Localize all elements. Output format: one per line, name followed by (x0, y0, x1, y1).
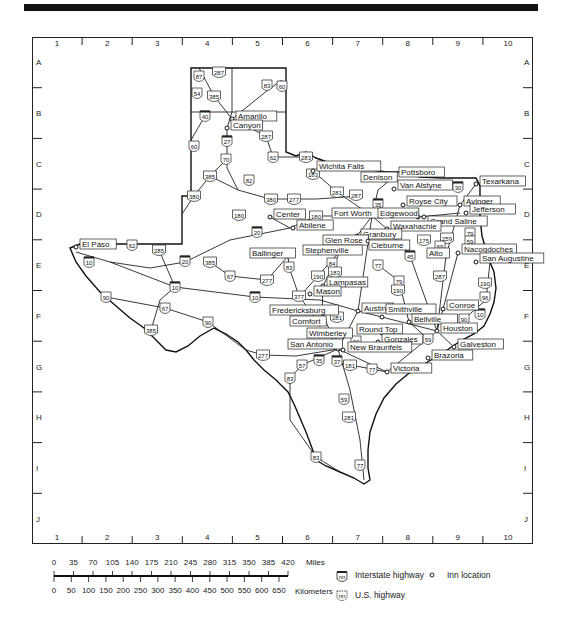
svg-text:77: 77 (369, 367, 376, 373)
city-amarillo[interactable]: Amarillo (230, 111, 277, 121)
km-tick: 100 (82, 586, 96, 595)
city-houston[interactable]: Houston (435, 323, 477, 333)
us-highway-181-shield: 181 (344, 360, 357, 371)
grid-row-label: H (524, 413, 530, 422)
inn-location-icon (422, 215, 426, 219)
inn-location-icon (268, 215, 272, 219)
us-highway-96-shield: 96 (480, 292, 490, 303)
svg-text:287: 287 (351, 193, 362, 199)
svg-text:281: 281 (344, 415, 355, 421)
city-fort-worth[interactable]: Fort Worth (332, 208, 382, 218)
svg-text:10: 10 (477, 312, 484, 318)
interstate-20-shield: 20 (252, 227, 262, 238)
city-royse-city[interactable]: Royse City (401, 196, 457, 207)
svg-text:70: 70 (223, 157, 230, 163)
city-van-alstyne[interactable]: Van Alstyne (392, 180, 453, 191)
city-texarkana[interactable]: Texarkana (474, 176, 525, 186)
svg-text:83: 83 (313, 455, 320, 461)
city-alto[interactable]: Alto (427, 248, 449, 258)
city-label: Wimberley (309, 329, 347, 338)
city-glen-rose[interactable]: Glen Rose (323, 235, 368, 245)
grid-row-label: G (36, 363, 42, 372)
city-denison[interactable]: Denison (361, 172, 397, 182)
svg-text:377: 377 (294, 294, 305, 300)
inn-location-icon (225, 126, 229, 130)
grid-column-label: 8 (406, 39, 411, 48)
city-label: Glen Rose (325, 236, 363, 245)
city-label: Smithville (388, 305, 423, 314)
inn-location-icon (430, 573, 434, 577)
city-label: Texarkana (482, 177, 519, 186)
svg-text:175: 175 (419, 238, 430, 244)
grid-column-label: 9 (456, 39, 461, 48)
svg-text:83: 83 (287, 376, 294, 382)
inn-location-icon (441, 307, 445, 311)
svg-text:287: 287 (261, 134, 272, 140)
city-new-braunfels[interactable]: New Braunfels (341, 342, 412, 352)
city-victoria[interactable]: Victoria (385, 363, 432, 374)
us-highway-legend-label: U.S. highway (355, 590, 406, 600)
svg-text:59: 59 (341, 397, 348, 403)
us-highway-377-shield: 377 (293, 291, 306, 302)
city-el-paso[interactable]: El Paso (74, 239, 116, 249)
inn-location-icon (392, 187, 396, 191)
miles-tick: 0 (52, 558, 57, 567)
us-highway-77-shield: 77 (367, 364, 377, 375)
svg-text:59: 59 (425, 337, 432, 343)
grid-row-label: I (524, 464, 526, 473)
svg-text:96: 96 (482, 295, 489, 301)
city-ballinger[interactable]: Ballinger (250, 248, 295, 258)
city-cleburne[interactable]: Cleburne (366, 239, 410, 250)
us-highway-277-shield: 277 (288, 194, 301, 205)
city-label: Pottsboro (401, 168, 436, 177)
city-fredericksburg[interactable]: Fredericksburg (270, 305, 338, 315)
city-label: El Paso (82, 240, 110, 249)
us-highway-380-shield: 380 (265, 194, 278, 205)
city-san-antonio[interactable]: San Antonio (288, 339, 343, 351)
city-abilene[interactable]: Abilene (291, 220, 333, 230)
city-label: Victoria (393, 364, 420, 373)
svg-text:79: 79 (467, 231, 474, 237)
city-galveston[interactable]: Galveston (452, 339, 503, 349)
interstate-10-shield: 10 (170, 282, 180, 293)
grid-column-label: 7 (355, 39, 360, 48)
city-bellville[interactable]: Bellville (407, 314, 457, 324)
grid-column-label: 3 (155, 533, 160, 542)
city-edgewood[interactable]: Edgewood (378, 208, 420, 219)
miles-tick: 315 (223, 558, 237, 567)
inn-location-icon (356, 309, 360, 313)
us-highway-190-shield: 190 (479, 278, 492, 289)
city-round-top[interactable]: Round Top (357, 324, 402, 335)
svg-text:283: 283 (301, 155, 312, 161)
city-brazoria[interactable]: Brazoria (426, 350, 473, 360)
us-highway-277-shield: 277 (257, 350, 270, 361)
inn-location-icon (380, 315, 384, 319)
city-stephenville[interactable]: Stephenville (303, 245, 362, 255)
grid-row-label: A (36, 58, 42, 67)
us-highway-385-shield: 385 (145, 325, 158, 336)
city-label: Houston (443, 324, 473, 333)
svg-text:385: 385 (209, 94, 220, 100)
svg-text:285: 285 (154, 248, 165, 254)
city-comfort[interactable]: Comfort (290, 316, 326, 326)
interstate-20-shield: 20 (180, 256, 190, 267)
texas-map[interactable]: 1122334455667788991010AABBCCDDEEFFGGHHII… (0, 0, 564, 627)
city-pottsboro[interactable]: Pottsboro (393, 167, 444, 178)
city-label: New Braunfels (350, 343, 402, 352)
city-san-augustine[interactable]: San Augustine (474, 253, 544, 264)
us-highway-180-shield: 180 (233, 210, 246, 221)
interstate-legend-shield-text: nn (339, 574, 346, 580)
km-tick: 550 (238, 586, 252, 595)
city-jefferson[interactable]: Jefferson (464, 204, 515, 215)
inn-location-icon (407, 320, 411, 324)
city-label: Mason (316, 287, 340, 296)
city-label: Bellville (414, 315, 442, 324)
interstate-30-shield: 30 (453, 182, 463, 193)
grid-row-label: J (524, 515, 528, 524)
city-wichita-falls[interactable]: Wichita Falls (311, 161, 381, 173)
svg-text:10: 10 (172, 285, 179, 291)
city-label: Wichita Falls (319, 162, 364, 171)
inn-location-icon (458, 203, 462, 207)
grid-column-label: 3 (155, 39, 160, 48)
miles-tick: 350 (242, 558, 256, 567)
